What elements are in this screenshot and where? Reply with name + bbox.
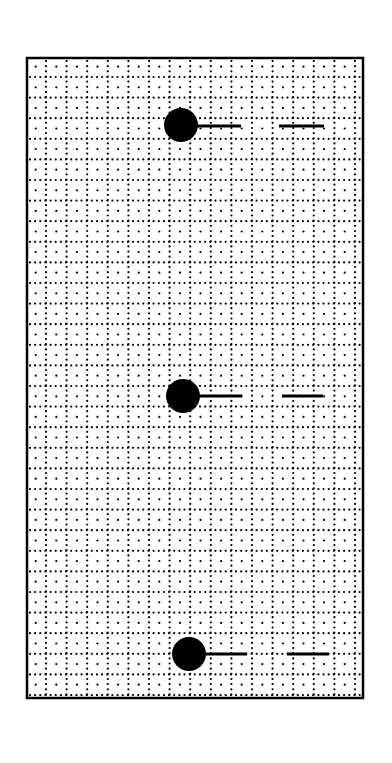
ball: [172, 637, 206, 671]
ball-stick-figure: [166, 379, 323, 413]
figures: [164, 108, 329, 671]
diagram-canvas: [0, 0, 392, 763]
ball: [164, 108, 198, 142]
grid-diagram: [0, 0, 392, 763]
ball: [166, 379, 200, 413]
ball-stick-figure: [164, 108, 324, 142]
dotted-grid: [29, 60, 361, 696]
